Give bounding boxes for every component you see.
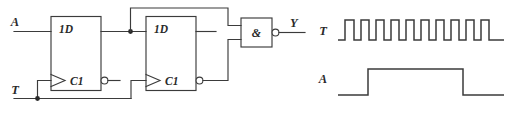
waveform-a-label: A (318, 72, 327, 86)
waveform-t-trace (338, 20, 504, 40)
input-a-label: A (10, 15, 19, 29)
wire-t-to-ff2-clock (131, 81, 146, 99)
input-t-label: T (11, 83, 20, 97)
nand-gate-inversion-bubble (272, 29, 279, 36)
flipflop-2-qbar-bubble (196, 77, 203, 84)
flipflop-2-clock-label: C1 (165, 75, 178, 87)
nand-gate-label: & (252, 26, 262, 40)
waveform-a-trace (338, 69, 504, 95)
wire-t-to-ff1-clock (38, 81, 52, 99)
circuit-figure: A T 1D C1 1D C1 & Y T A (0, 0, 513, 113)
output-y-label: Y (290, 16, 299, 30)
flipflop-1-qbar-bubble (101, 77, 108, 84)
flipflop-2-data-label: 1D (154, 23, 169, 35)
flipflop-1-clock-label: C1 (70, 75, 83, 87)
waveform-t-label: T (319, 24, 328, 38)
wire-ff2-qbar-to-nand (203, 40, 241, 81)
schematic-canvas: A T 1D C1 1D C1 & Y T A (0, 0, 513, 113)
junction-dot-t (35, 96, 40, 101)
flipflop-1-data-label: 1D (59, 23, 74, 35)
